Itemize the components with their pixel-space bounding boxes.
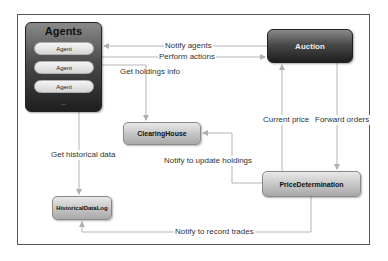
historical-data-log-label: HistoricalDataLog — [56, 205, 107, 211]
agent-item[interactable]: Agent — [34, 80, 94, 93]
edge-label-current-price: Current price — [262, 115, 310, 125]
price-determination-node[interactable]: PriceDetermination — [262, 171, 361, 197]
agents-node[interactable]: Agents Agent Agent Agent ... — [25, 22, 102, 112]
edge-label-notify-update-holdings: Notify to update holdings — [163, 156, 253, 166]
clearing-house-node[interactable]: ClearingHouse — [123, 122, 201, 145]
edge-label-forward-orders: Forward orders — [314, 115, 370, 125]
agent-item[interactable]: Agent — [34, 42, 94, 55]
historical-data-log-node[interactable]: HistoricalDataLog — [52, 196, 112, 220]
edge-label-notify-agents: Notify agents — [164, 41, 213, 51]
auction-label: Auction — [268, 30, 352, 62]
edge-label-get-holdings-info: Get holdings info — [119, 67, 181, 77]
edge-label-perform-actions: Perform actions — [158, 52, 216, 62]
auction-node[interactable]: Auction — [267, 29, 353, 63]
clearing-house-label: ClearingHouse — [137, 130, 186, 137]
edge-label-get-historical-data: Get historical data — [50, 150, 116, 160]
edge-label-notify-record-trades: Notify to record trades — [174, 227, 255, 237]
agent-item[interactable]: Agent — [34, 61, 94, 74]
agents-title: Agents — [26, 25, 101, 37]
price-determination-label: PriceDetermination — [279, 181, 343, 188]
agents-more-indicator: ... — [26, 100, 101, 106]
